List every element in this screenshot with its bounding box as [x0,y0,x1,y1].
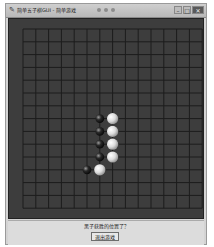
window-title: 简单五子棋GUI - 简单游戏 [17,6,76,15]
minimize-button[interactable]: – [174,6,182,14]
exit-game-button[interactable]: 退出游戏 [91,232,119,241]
white-stone [107,151,118,162]
black-stone [95,114,104,123]
title-bar[interactable]: ✎ 简单五子棋GUI - 简单游戏 – □ ✕ [6,4,206,18]
window-controls: – □ ✕ [174,6,204,14]
white-stone [107,139,118,150]
status-panel: 黑子获胜的位置了？ 退出游戏 [8,220,204,245]
white-stone [107,113,118,124]
maximize-button[interactable]: □ [183,6,191,14]
game-window: ✎ 简单五子棋GUI - 简单游戏 – □ ✕ 黑子获胜的位置了？ 退出游戏 [5,3,207,245]
titlebar-decoration [94,8,118,13]
status-message: 黑子获胜的位置了？ [8,223,204,230]
white-stone [107,126,118,137]
board-grid[interactable] [9,19,205,220]
app-icon: ✎ [9,7,15,14]
black-stone [95,140,104,149]
black-stone [95,153,104,162]
close-button[interactable]: ✕ [192,6,204,14]
white-stone [94,164,105,175]
black-stone [95,127,104,136]
gomoku-board[interactable] [8,18,204,219]
black-stone [83,165,92,174]
